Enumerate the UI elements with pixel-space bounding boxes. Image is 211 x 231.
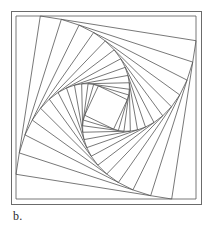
spiral-ring [41, 41, 172, 174]
spiral-ring [16, 16, 196, 199]
spiral-ring [83, 84, 130, 132]
spiral-ring [32, 33, 179, 183]
spiral-ring [82, 83, 131, 132]
spiral-ring [74, 75, 137, 139]
figure-panel: b. [0, 0, 211, 231]
spiral-ring [19, 19, 192, 195]
spiral-ring [16, 16, 196, 199]
spiral-ring [83, 84, 128, 130]
spiral-polygons [16, 16, 196, 199]
spiral-ring [25, 25, 187, 190]
spiral-figure-svg [0, 0, 211, 231]
figure-label: b. [13, 209, 22, 223]
spiral-ring [58, 59, 154, 157]
